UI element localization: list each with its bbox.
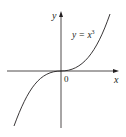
curve-equation-exponent: 3 <box>92 29 95 35</box>
x-axis-arrow-icon <box>113 69 119 73</box>
cubic-graph: y x 0 y = x3 <box>0 0 126 137</box>
y-axis-label: y <box>51 10 57 21</box>
cubic-curve <box>14 14 110 126</box>
curve-equation-label: y = x3 <box>71 29 95 40</box>
y-axis-arrow-icon <box>59 11 63 17</box>
x-axis-label: x <box>113 74 119 85</box>
curve-equation-base: y = x <box>71 30 92 40</box>
origin-label: 0 <box>64 74 69 84</box>
